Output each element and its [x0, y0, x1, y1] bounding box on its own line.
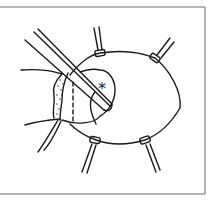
- clip-top-right: [149, 38, 174, 63]
- frame-border: [0, 7, 205, 194]
- stippled-band-outline-right: [60, 73, 68, 120]
- inner-flap-fold: [91, 92, 96, 124]
- suture-ring: [70, 52, 180, 144]
- illustration: *: [0, 0, 209, 204]
- tissue-edge-upper: [21, 70, 62, 74]
- clip-bottom-left: [82, 136, 100, 173]
- suture-thread: [38, 120, 61, 152]
